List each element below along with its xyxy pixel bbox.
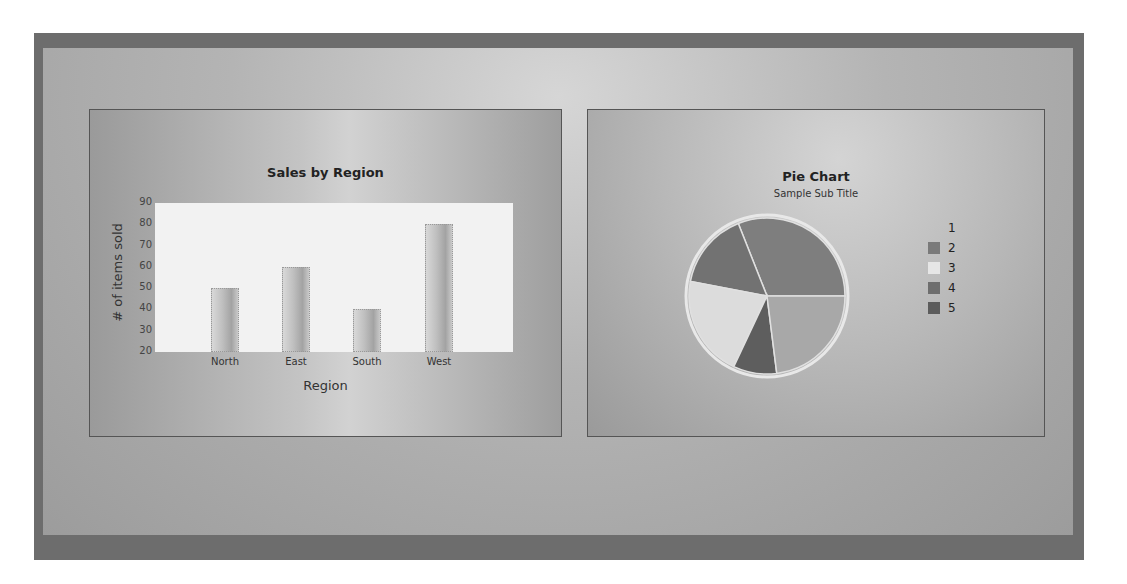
legend-label: 4 bbox=[948, 281, 956, 295]
legend-item-1: 1 bbox=[928, 219, 956, 237]
bar-south bbox=[353, 309, 381, 352]
legend-swatch bbox=[928, 262, 940, 274]
x-tick: North bbox=[195, 356, 255, 367]
y-tick: 80 bbox=[124, 217, 152, 228]
pie-chart-panel: Pie Chart Sample Sub Title 12345 bbox=[587, 109, 1045, 437]
legend-item-4: 4 bbox=[928, 279, 956, 297]
legend-swatch bbox=[928, 302, 940, 314]
y-tick: 30 bbox=[124, 324, 152, 335]
y-tick: 40 bbox=[124, 302, 152, 313]
bar-north bbox=[211, 288, 239, 352]
pie-chart bbox=[588, 110, 1046, 438]
legend-item-3: 3 bbox=[928, 259, 956, 277]
x-tick: West bbox=[409, 356, 469, 367]
y-axis-label: # of items sold bbox=[110, 213, 125, 333]
x-axis-label: Region bbox=[90, 378, 561, 393]
bar-chart-title: Sales by Region bbox=[90, 165, 561, 180]
legend-swatch bbox=[928, 222, 940, 234]
y-tick: 20 bbox=[124, 345, 152, 356]
legend-label: 1 bbox=[948, 221, 956, 235]
y-tick: 90 bbox=[124, 196, 152, 207]
bar-west bbox=[425, 224, 453, 352]
x-tick: East bbox=[266, 356, 326, 367]
bar-plot-area bbox=[155, 203, 513, 352]
legend-item-2: 2 bbox=[928, 239, 956, 257]
y-tick: 60 bbox=[124, 260, 152, 271]
legend-swatch bbox=[928, 282, 940, 294]
pie-slice-5 bbox=[767, 296, 845, 373]
legend-label: 3 bbox=[948, 261, 956, 275]
x-tick: South bbox=[337, 356, 397, 367]
legend-label: 5 bbox=[948, 301, 956, 315]
y-tick: 50 bbox=[124, 281, 152, 292]
bar-chart-panel: Sales by Region # of items sold 20304050… bbox=[89, 109, 562, 437]
y-tick: 70 bbox=[124, 239, 152, 250]
legend-swatch bbox=[928, 242, 940, 254]
bar-east bbox=[282, 267, 310, 352]
legend-item-5: 5 bbox=[928, 299, 956, 317]
legend-label: 2 bbox=[948, 241, 956, 255]
